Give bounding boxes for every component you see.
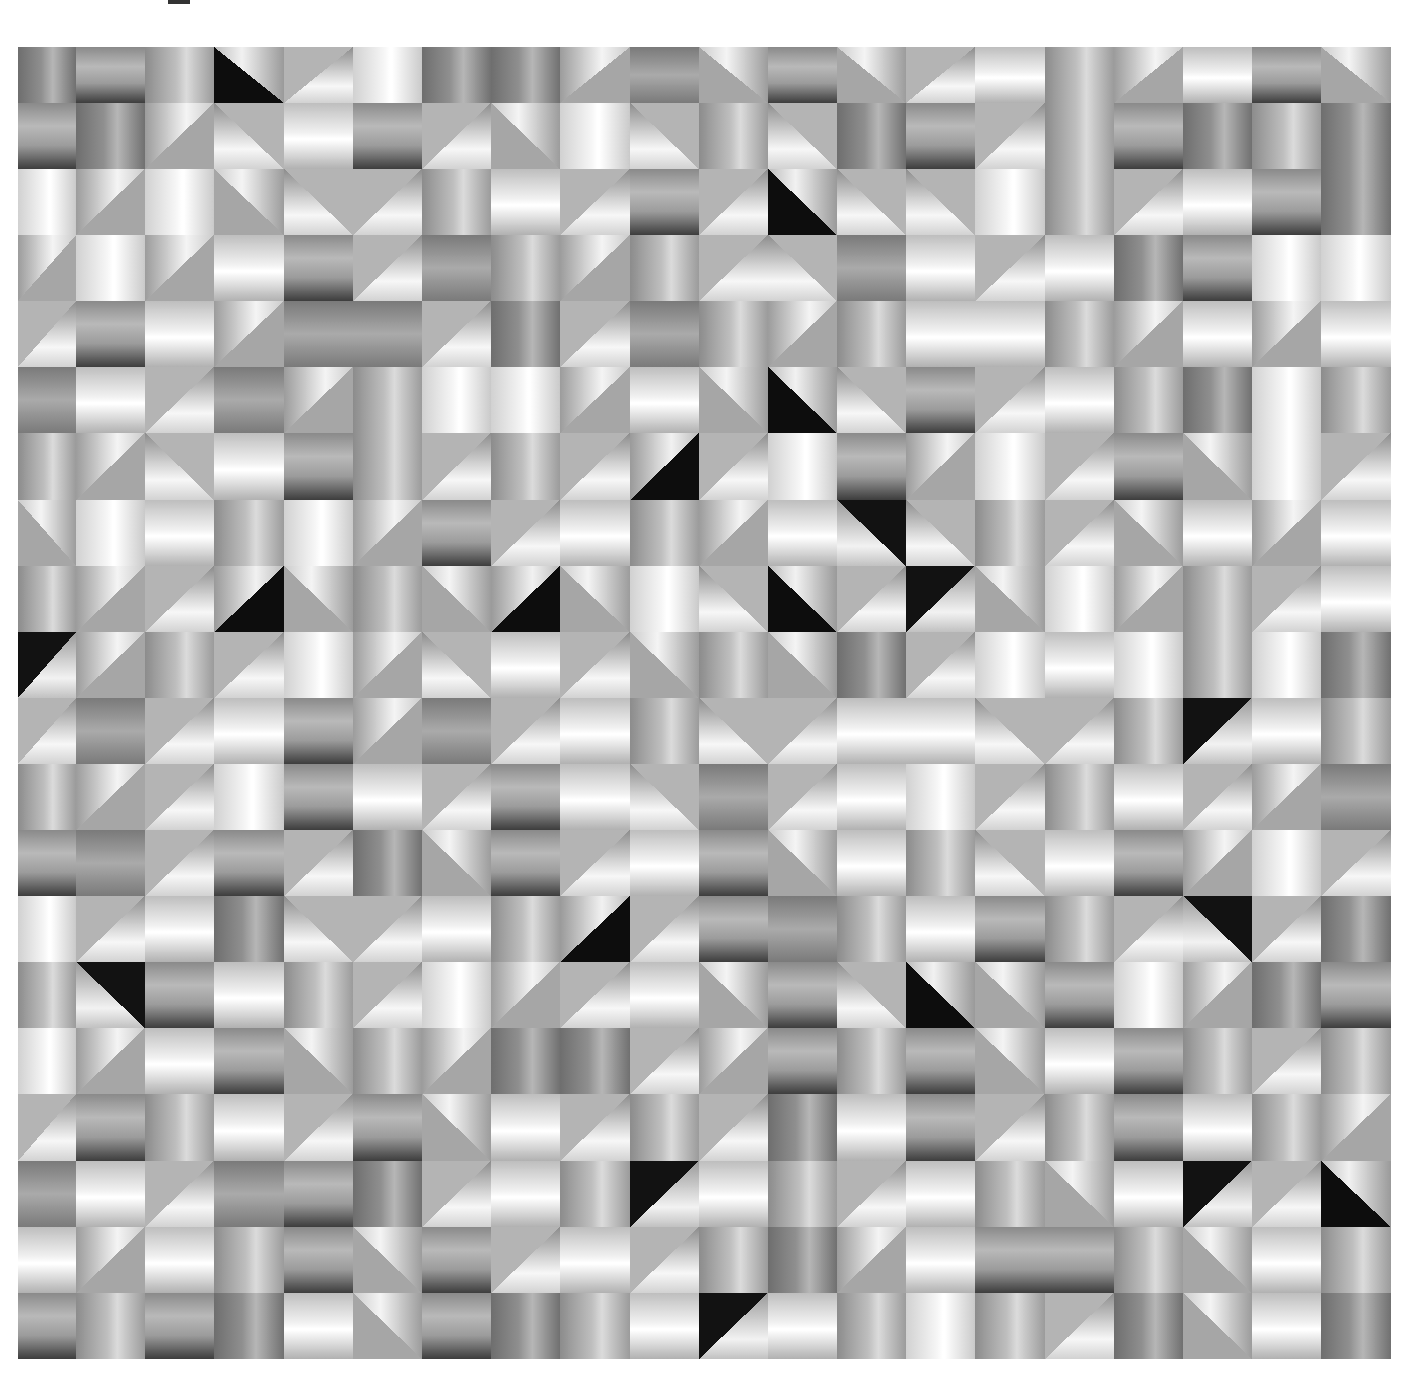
tile-vertical-gradient-mid xyxy=(1045,896,1114,962)
tile-vertical-gradient-dark xyxy=(1321,1293,1390,1359)
tile-horizontal-gradient-dark-bottom xyxy=(1114,1028,1183,1094)
tile-vertical-gradient-mid xyxy=(214,1227,283,1293)
tile-diagonal-split-down-right xyxy=(975,1094,1044,1160)
tile-diagonal-split-up-right xyxy=(699,47,768,103)
tile-horizontal-gradient-dark-bottom xyxy=(1321,962,1390,1028)
tile-horizontal-gradient-light xyxy=(1045,632,1114,698)
tile-vertical-gradient-mid xyxy=(837,1293,906,1359)
tile-horizontal-gradient-gray xyxy=(76,698,145,764)
tile-horizontal-gradient-gray xyxy=(18,1161,76,1227)
tile-diagonal-split-down-right xyxy=(18,1094,76,1160)
tile-vertical-gradient-dark xyxy=(1183,103,1252,169)
tile-dark-triangle-up-left xyxy=(491,566,560,632)
tile-vertical-gradient-mid xyxy=(1321,1028,1390,1094)
tile-vertical-gradient-light xyxy=(1252,235,1321,301)
tile-diagonal-split-up-left xyxy=(76,169,145,235)
tile-horizontal-gradient-dark-bottom xyxy=(76,47,145,103)
tile-diagonal-split-up-left xyxy=(560,367,629,433)
tile-diagonal-split-up-left xyxy=(560,47,629,103)
tile-diagonal-split-down-right xyxy=(491,500,560,566)
tile-vertical-gradient-mid xyxy=(699,103,768,169)
tile-horizontal-gradient-light xyxy=(491,632,560,698)
tile-vertical-gradient-dark xyxy=(1321,632,1390,698)
tile-diagonal-split-up-left xyxy=(1183,830,1252,896)
tile-vertical-gradient-light xyxy=(145,169,214,235)
tile-vertical-gradient-mid xyxy=(1045,103,1114,169)
tile-diagonal-split-down-right xyxy=(353,962,422,1028)
tile-horizontal-gradient-light xyxy=(630,1293,699,1359)
tile-horizontal-gradient-dark-bottom xyxy=(422,500,491,566)
tile-dark-triangle-down-left xyxy=(1183,896,1252,962)
tile-horizontal-gradient-dark-bottom xyxy=(1045,962,1114,1028)
tile-vertical-gradient-mid xyxy=(145,632,214,698)
tile-vertical-gradient-mid xyxy=(145,47,214,103)
tile-diagonal-split-down-right xyxy=(491,698,560,764)
tile-dark-triangle-down-right xyxy=(18,632,76,698)
tile-diagonal-split-up-right xyxy=(1183,433,1252,499)
tile-diagonal-split-down-left xyxy=(422,632,491,698)
tile-horizontal-gradient-dark-bottom xyxy=(284,1227,353,1293)
tile-horizontal-gradient-dark-bottom xyxy=(630,169,699,235)
tile-vertical-gradient-mid xyxy=(975,1293,1044,1359)
tile-vertical-gradient-dark xyxy=(18,47,76,103)
tile-vertical-gradient-mid xyxy=(1045,1094,1114,1160)
tile-horizontal-gradient-dark-bottom xyxy=(1114,1094,1183,1160)
tile-horizontal-gradient-light xyxy=(214,1094,283,1160)
tile-dark-triangle-up-right xyxy=(768,169,837,235)
tile-diagonal-split-up-right xyxy=(837,47,906,103)
tile-horizontal-gradient-light xyxy=(1183,500,1252,566)
tile-diagonal-split-up-right xyxy=(699,367,768,433)
tile-horizontal-gradient-light xyxy=(906,301,975,367)
tile-horizontal-gradient-light xyxy=(214,235,283,301)
tile-dark-triangle-down-right xyxy=(906,566,975,632)
tile-horizontal-gradient-gray xyxy=(18,367,76,433)
tile-diagonal-split-down-right xyxy=(18,301,76,367)
tile-vertical-gradient-mid xyxy=(18,433,76,499)
tile-horizontal-gradient-dark-bottom xyxy=(145,1293,214,1359)
tile-vertical-gradient-dark xyxy=(1321,103,1390,169)
tile-vertical-gradient-mid xyxy=(353,566,422,632)
tile-diagonal-split-up-left xyxy=(353,632,422,698)
tile-vertical-gradient-mid xyxy=(837,1028,906,1094)
tile-diagonal-split-up-right xyxy=(630,632,699,698)
tile-vertical-gradient-mid xyxy=(560,1161,629,1227)
tile-diagonal-split-down-right xyxy=(699,1094,768,1160)
tile-diagonal-split-up-right xyxy=(699,962,768,1028)
tile-vertical-gradient-mid xyxy=(630,1094,699,1160)
tile-horizontal-gradient-gray xyxy=(422,235,491,301)
tile-horizontal-gradient-dark-bottom xyxy=(768,962,837,1028)
tile-horizontal-gradient-light xyxy=(18,1227,76,1293)
tile-horizontal-gradient-dark-bottom xyxy=(1114,433,1183,499)
tile-vertical-gradient-light xyxy=(975,632,1044,698)
tile-horizontal-gradient-dark-bottom xyxy=(906,1028,975,1094)
tile-vertical-gradient-mid xyxy=(1045,301,1114,367)
tile-dark-triangle-down-left xyxy=(837,500,906,566)
tile-diagonal-split-down-right xyxy=(768,764,837,830)
tile-horizontal-gradient-dark-bottom xyxy=(422,1227,491,1293)
tile-dark-triangle-up-right xyxy=(214,47,283,103)
tile-diagonal-split-down-right xyxy=(768,698,837,764)
tile-diagonal-split-down-right xyxy=(1252,1028,1321,1094)
tile-diagonal-split-down-right xyxy=(284,1094,353,1160)
tile-horizontal-gradient-light xyxy=(145,1028,214,1094)
tile-horizontal-gradient-dark-bottom xyxy=(353,1094,422,1160)
tile-vertical-gradient-mid xyxy=(76,1293,145,1359)
tile-vertical-gradient-mid xyxy=(1252,103,1321,169)
tile-diagonal-split-up-right xyxy=(422,830,491,896)
tile-vertical-gradient-mid xyxy=(491,235,560,301)
tile-vertical-gradient-light xyxy=(906,1293,975,1359)
tile-diagonal-split-up-right xyxy=(560,566,629,632)
tile-vertical-gradient-mid xyxy=(699,301,768,367)
tile-diagonal-split-down-right xyxy=(145,367,214,433)
tile-diagonal-split-up-right xyxy=(284,566,353,632)
tile-diagonal-split-up-right xyxy=(975,962,1044,1028)
tile-vertical-gradient-dark xyxy=(353,1161,422,1227)
tile-vertical-gradient-dark xyxy=(491,1293,560,1359)
tile-horizontal-gradient-dark-bottom xyxy=(284,235,353,301)
tile-vertical-gradient-light xyxy=(975,169,1044,235)
tile-horizontal-gradient-light xyxy=(1252,1293,1321,1359)
tile-horizontal-gradient-light xyxy=(214,962,283,1028)
tile-diagonal-split-down-right xyxy=(1252,566,1321,632)
tile-vertical-gradient-mid xyxy=(1114,367,1183,433)
tile-horizontal-gradient-dark-bottom xyxy=(353,103,422,169)
